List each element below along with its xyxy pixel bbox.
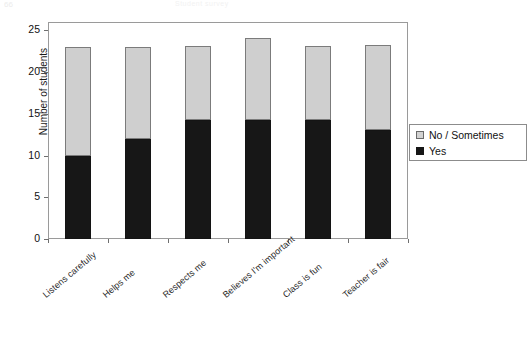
bar-segment-yes [365,130,391,239]
y-tick-label: 5 [8,191,40,202]
y-tick-mark [44,72,48,73]
legend-swatch-black-icon [416,147,424,155]
x-axis-label-5: Class is fun [281,261,324,299]
y-tick-mark [44,30,48,31]
bar-segment-yes [65,156,91,239]
page-number-artifact: 66 [4,0,38,9]
bar-segment-no-sometimes [305,46,331,120]
legend-item-no-sometimes: No / Sometimes [416,128,504,142]
bar-segment-no-sometimes [185,46,211,120]
legend-item-yes: Yes [416,144,446,158]
x-axis-label-2: Helps me [101,267,137,300]
bar-segment-yes [305,120,331,239]
legend-swatch-gray-icon [416,131,424,139]
x-tick-mark [228,239,229,243]
y-tick-label: 25 [8,24,40,35]
y-tick-mark [44,156,48,157]
x-tick-mark [168,239,169,243]
bar-segment-no-sometimes [365,45,391,129]
bar-4 [245,38,271,239]
legend-label-yes: Yes [429,146,446,157]
bar-segment-yes [125,139,151,239]
bar-3 [185,46,211,239]
bar-segment-no-sometimes [125,47,151,139]
bar-segment-no-sometimes [65,47,91,156]
x-tick-mark [348,239,349,243]
x-tick-mark [108,239,109,243]
bar-1 [65,47,91,239]
legend-label-no-sometimes: No / Sometimes [429,130,504,141]
y-tick-label: 10 [8,150,40,161]
plot-area [48,22,408,239]
x-tick-mark [48,239,49,243]
y-tick-label: 20 [8,66,40,77]
x-axis-label-6: Teacher is fair [341,255,391,300]
bar-5 [305,46,331,239]
bar-2 [125,47,151,239]
legend: No / Sometimes Yes [409,124,527,161]
bar-segment-yes [185,120,211,239]
y-tick-label: 0 [8,233,40,244]
y-tick-mark [44,197,48,198]
y-tick-label: 15 [8,108,40,119]
x-axis-label-1: Listens carefully [41,250,98,300]
bar-segment-no-sometimes [245,38,271,121]
x-tick-mark [408,239,409,243]
x-axis-label-3: Respects me [161,258,209,300]
bar-segment-yes [245,120,271,239]
y-tick-mark [44,114,48,115]
bar-6 [365,45,391,239]
stacked-bar-chart: 66 Student survey Number of students 051… [0,0,530,342]
clipped-title-artifact: Student survey [175,0,325,8]
